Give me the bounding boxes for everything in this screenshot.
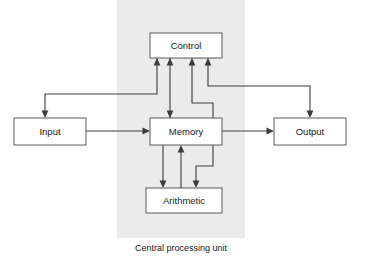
diagram-canvas: Control Memory Arithmetic Input Output C… [0, 0, 366, 266]
node-control-label: Control [171, 40, 202, 51]
cpu-region-caption: Central processing unit [135, 243, 228, 253]
arrowhead-control-to-output [307, 111, 314, 119]
node-memory-label: Memory [169, 126, 204, 137]
cpu-block-diagram: Control Memory Arithmetic Input Output C… [0, 0, 366, 266]
arrowhead-memory-to-output [267, 128, 275, 135]
node-output-label: Output [296, 126, 325, 137]
node-input-label: Input [39, 126, 60, 137]
node-arithmetic-label: Arithmetic [163, 195, 205, 206]
arrowhead-control-to-input [42, 111, 49, 119]
